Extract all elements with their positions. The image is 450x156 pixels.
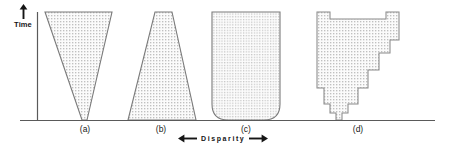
shape-caption-c: (c) [241,124,251,134]
shape-caption-b: (b) [156,124,166,134]
shape-b-upright-triangle [124,8,204,126]
right-arrow-icon [249,134,268,143]
up-arrow-icon [19,4,28,19]
shape-caption-d: (d) [353,124,363,134]
figure-canvas [0,0,450,156]
x-axis-label: Disparity [201,135,245,142]
y-axis-label-group: Time [10,4,36,29]
shape-d-stepped-funnel [313,8,405,126]
y-axis-label: Time [14,20,32,29]
shape-c-u-shape [208,8,288,126]
shape-caption-a: (a) [80,124,90,134]
disparity-time-figure: Time Disparity (a) (b) (c) (d) [0,0,450,156]
left-arrow-icon [178,134,197,143]
x-axis-label-group: Disparity [178,134,268,143]
shape-a-inverted-triangle [40,8,120,126]
